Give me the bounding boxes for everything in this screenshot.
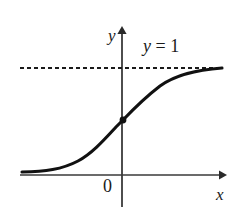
asymptote-value: = 1 — [151, 36, 179, 56]
x-axis-label: x — [216, 186, 224, 203]
origin-label: 0 — [103, 177, 112, 195]
asymptote-variable: y — [143, 36, 151, 56]
asymptote-equation-label: y = 1 — [143, 37, 179, 55]
graph-figure: y x 0 y = 1 — [0, 0, 235, 217]
y-axis-label: y — [108, 27, 116, 44]
x-axis-arrowhead — [219, 171, 227, 180]
y-axis-arrowhead — [117, 26, 126, 34]
plot-canvas — [0, 0, 235, 217]
y-intercept-point — [120, 117, 127, 124]
x-axis — [20, 171, 227, 180]
